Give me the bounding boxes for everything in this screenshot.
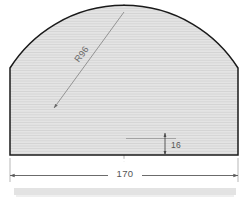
drawing-canvas: R96 16 170 [0, 0, 250, 201]
footer-strip [14, 188, 236, 197]
width-label-text: 170 [117, 168, 134, 179]
width-dimension: 170 [10, 158, 238, 182]
depth-label-text: 16 [171, 140, 181, 150]
profile-shape [10, 5, 238, 155]
technical-drawing: R96 16 170 [0, 0, 250, 201]
